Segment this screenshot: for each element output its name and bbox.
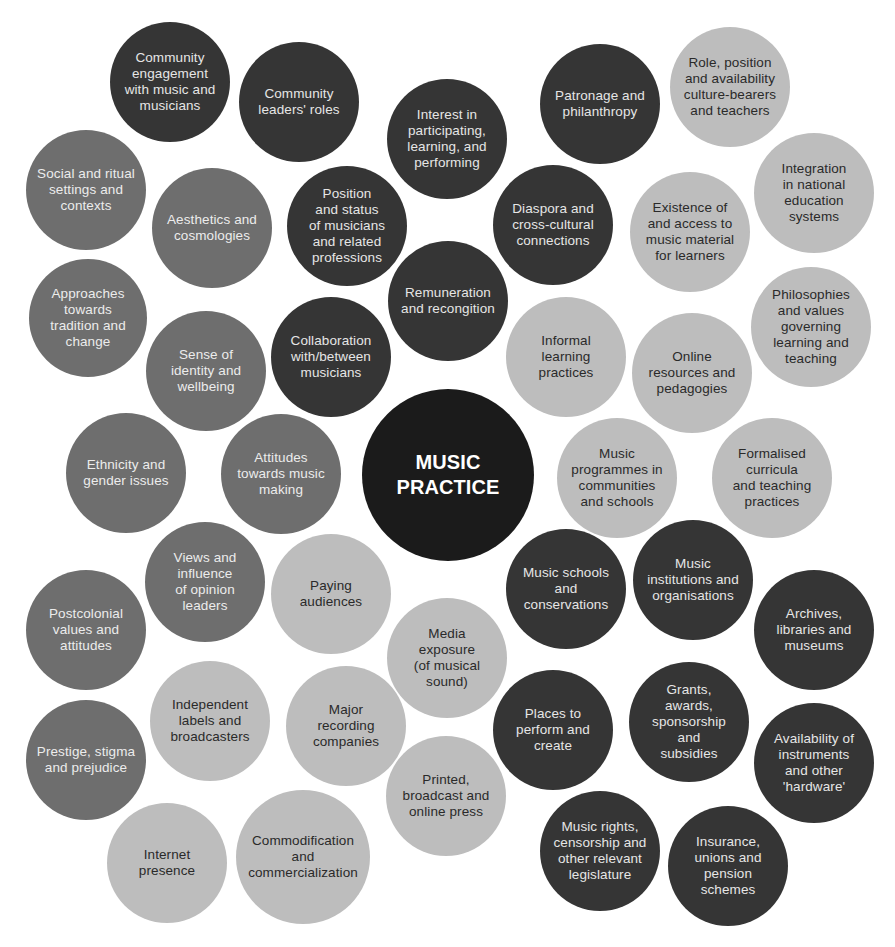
bubble-label: Existence of and access to music materia… (646, 200, 734, 264)
bubble-label: Media exposure (of musical sound) (414, 626, 480, 690)
bubble-archives-libraries-and-museums: Archives, libraries and museums (754, 570, 874, 690)
bubble-label: Printed, broadcast and online press (403, 772, 490, 820)
bubble-label: Community leaders' roles (258, 86, 339, 118)
bubble-views-and-influence-of-opinion-leaders: Views and influence of opinion leaders (145, 522, 265, 642)
bubble-label: Informal learning practices (539, 333, 594, 381)
bubble-label: Philosophies and values governing learni… (772, 287, 850, 367)
center-bubble-music-practice: MUSIC PRACTICE (362, 389, 534, 561)
bubble-label: Music institutions and organisations (647, 556, 739, 604)
bubble-remuneration-and-recongition: Remuneration and recongition (388, 241, 508, 361)
bubble-community-engagement-with-music-and-musi: Community engagement with music and musi… (110, 22, 230, 142)
music-practice-bubble-diagram: MUSIC PRACTICE Community engagement with… (0, 0, 895, 947)
bubble-availability-of-instruments-and-other-ha: Availability of instruments and other 'h… (754, 703, 874, 823)
bubble-position-and-status-of-musicians-and-rel: Position and status of musicians and rel… (287, 166, 407, 286)
bubble-label: Interest in participating, learning, and… (407, 107, 486, 171)
bubble-diaspora-and-cross-cultural-connections: Diaspora and cross-cultural connections (493, 165, 613, 285)
bubble-paying-audiences: Paying audiences (271, 534, 391, 654)
bubble-printed-broadcast-and-online-press: Printed, broadcast and online press (386, 736, 506, 856)
bubble-label: Availability of instruments and other 'h… (774, 731, 854, 795)
bubble-approaches-towards-tradition-and-change: Approaches towards tradition and change (29, 259, 147, 377)
bubble-label: Major recording companies (313, 702, 379, 750)
bubble-internet-presence: Internet presence (107, 803, 227, 923)
bubble-independent-labels-and-broadcasters: Independent labels and broadcasters (150, 661, 270, 781)
bubble-label: Role, position and availability culture-… (684, 55, 776, 119)
bubble-commodification-and-commercialization: Commodification and commercialization (236, 790, 370, 924)
bubble-ethnicity-and-gender-issues: Ethnicity and gender issues (66, 413, 186, 533)
bubble-label: Approaches towards tradition and change (50, 286, 126, 350)
bubble-label: Independent labels and broadcasters (170, 697, 249, 745)
bubble-interest-in-participating-learning-and-p: Interest in participating, learning, and… (387, 79, 507, 199)
bubble-label: Remuneration and recongition (401, 285, 495, 317)
bubble-label: Prestige, stigma and prejudice (37, 744, 135, 776)
bubble-social-and-ritual-settings-and-contexts: Social and ritual settings and contexts (26, 130, 146, 250)
bubble-label: Social and ritual settings and contexts (37, 166, 135, 214)
bubble-label: Internet presence (139, 847, 195, 879)
bubble-label: Ethnicity and gender issues (83, 457, 168, 489)
bubble-community-leaders-roles: Community leaders' roles (239, 42, 359, 162)
bubble-existence-of-and-access-to-music-materia: Existence of and access to music materia… (630, 172, 750, 292)
bubble-formalised-curricula-and-teaching-practi: Formalised curricula and teaching practi… (712, 418, 832, 538)
bubble-label: Places to perform and create (516, 706, 590, 754)
bubble-label: Sense of identity and wellbeing (171, 347, 241, 395)
bubble-places-to-perform-and-create: Places to perform and create (493, 670, 613, 790)
bubble-music-schools-and-conservations: Music schools and conservations (506, 529, 626, 649)
bubble-label: Postcolonial values and attitudes (49, 606, 123, 654)
bubble-patronage-and-philanthropy: Patronage and philanthropy (540, 44, 660, 164)
bubble-online-resources-and-pedagogies: Online resources and pedagogies (632, 313, 752, 433)
bubble-label: Diaspora and cross-cultural connections (512, 201, 594, 249)
center-label: MUSIC PRACTICE (396, 450, 499, 500)
bubble-label: Views and influence of opinion leaders (174, 550, 237, 614)
bubble-label: Online resources and pedagogies (649, 349, 736, 397)
bubble-label: Paying audiences (300, 578, 362, 610)
bubble-music-institutions-and-organisations: Music institutions and organisations (633, 520, 753, 640)
bubble-attitudes-towards-music-making: Attitudes towards music making (221, 414, 341, 534)
bubble-philosophies-and-values-governing-learni: Philosophies and values governing learni… (751, 267, 871, 387)
bubble-label: Position and status of musicians and rel… (309, 186, 385, 266)
bubble-integration-in-national-education-system: Integration in national education system… (754, 133, 874, 253)
bubble-role-position-and-availability-culture-b: Role, position and availability culture-… (670, 27, 790, 147)
bubble-collaboration-with-between-musicians: Collaboration with/between musicians (271, 297, 391, 417)
bubble-media-exposure-of-musical-sound: Media exposure (of musical sound) (387, 598, 507, 718)
bubble-label: Music rights, censorship and other relev… (554, 819, 647, 883)
bubble-label: Aesthetics and cosmologies (167, 212, 257, 244)
bubble-prestige-stigma-and-prejudice: Prestige, stigma and prejudice (26, 700, 146, 820)
bubble-label: Archives, libraries and museums (777, 606, 852, 654)
bubble-grants-awards-sponsorship-and-subsidies: Grants, awards, sponsorship and subsidie… (629, 662, 749, 782)
bubble-postcolonial-values-and-attitudes: Postcolonial values and attitudes (26, 570, 146, 690)
bubble-label: Community engagement with music and musi… (125, 50, 216, 114)
bubble-label: Formalised curricula and teaching practi… (733, 446, 812, 510)
bubble-music-rights-censorship-and-other-releva: Music rights, censorship and other relev… (540, 791, 660, 911)
bubble-label: Insurance, unions and pension schemes (694, 834, 761, 898)
bubble-label: Integration in national education system… (782, 161, 847, 225)
bubble-label: Attitudes towards music making (237, 450, 325, 498)
bubble-label: Grants, awards, sponsorship and subsidie… (652, 682, 726, 762)
bubble-aesthetics-and-cosmologies: Aesthetics and cosmologies (152, 168, 272, 288)
bubble-insurance-unions-and-pension-schemes: Insurance, unions and pension schemes (668, 806, 788, 926)
bubble-label: Collaboration with/between musicians (291, 333, 372, 381)
bubble-label: Music schools and conservations (523, 565, 609, 613)
bubble-major-recording-companies: Major recording companies (286, 666, 406, 786)
bubble-label: Patronage and philanthropy (555, 88, 645, 120)
bubble-label: Commodification and commercialization (248, 833, 358, 881)
bubble-label: Music programmes in communities and scho… (571, 446, 662, 510)
bubble-sense-of-identity-and-wellbeing: Sense of identity and wellbeing (146, 311, 266, 431)
bubble-informal-learning-practices: Informal learning practices (506, 297, 626, 417)
bubble-music-programmes-in-communities-and-scho: Music programmes in communities and scho… (557, 418, 677, 538)
